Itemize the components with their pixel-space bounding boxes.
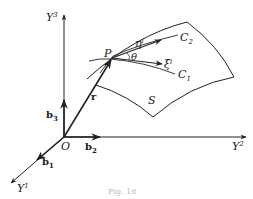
basis-b3-label: b3	[46, 109, 58, 123]
tangent-eta-label: ηi	[135, 37, 144, 50]
angle-arc	[127, 53, 130, 60]
surface-label: S	[148, 94, 156, 107]
basis-b1-label: b1	[42, 156, 54, 170]
axis-y1-label: Y1	[17, 182, 29, 195]
figure-caption: Fig. 16	[108, 187, 137, 196]
axis-y3-label: Y3	[46, 11, 58, 24]
curve-c1-label: C1	[178, 68, 191, 83]
point-p-label: P	[103, 47, 112, 60]
angle-theta-label: θ	[131, 51, 137, 62]
origin-label: O	[61, 140, 70, 153]
position-vector-r	[64, 60, 111, 137]
curve-c2-label: C2	[180, 31, 193, 46]
tangent-xi-label: ξi	[164, 58, 172, 71]
surface-curves-diagram: Y3 Y2 Y1 O b3 b2 b1 r P S C2 C1 ηi ξi θ …	[0, 0, 253, 199]
axis-y2-label: Y2	[232, 140, 244, 153]
basis-b2-label: b2	[85, 141, 97, 155]
position-vector-label: r	[91, 91, 97, 102]
surface-s	[87, 22, 234, 117]
